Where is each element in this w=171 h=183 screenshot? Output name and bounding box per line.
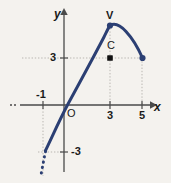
y-tick-label-3: 3 xyxy=(50,52,56,63)
endpoint-point-5-3 xyxy=(139,55,145,61)
guide-lines xyxy=(22,25,142,176)
parabola-curve xyxy=(46,24,143,150)
y-axis-arrow xyxy=(60,8,67,15)
vertex-point-V xyxy=(107,22,113,28)
graph-figure: y x O -1 3 5 3 -3 V C xyxy=(0,0,171,183)
x-tick-label-5: 5 xyxy=(139,110,145,121)
parabola-dotted-continuation xyxy=(41,152,46,179)
x-tick-label-3: 3 xyxy=(107,110,113,121)
parabola-plot xyxy=(0,0,171,183)
x-axis-label: x xyxy=(154,101,161,113)
point-C-marker xyxy=(107,55,113,61)
y-axis-label: y xyxy=(54,8,61,20)
point-label-V: V xyxy=(106,10,113,21)
origin-label: O xyxy=(67,108,76,119)
point-label-C: C xyxy=(107,40,115,51)
y-tick-label-minus3: -3 xyxy=(71,146,81,157)
x-tick-label-minus1: -1 xyxy=(36,89,46,100)
